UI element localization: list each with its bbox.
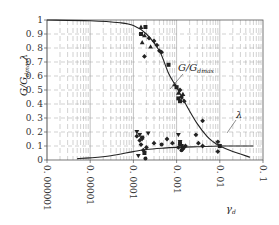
data-point-square xyxy=(143,25,147,29)
data-point-diamond xyxy=(170,141,175,146)
lambda-curve-annotation: λ xyxy=(235,109,242,120)
data-point-diamond xyxy=(142,54,147,59)
data-point-diamond xyxy=(194,132,199,137)
data-point-diamond xyxy=(200,118,205,123)
y-tick-label: 0. 9 xyxy=(26,29,43,39)
y-tick-label: 0 xyxy=(37,155,43,165)
data-point-diamond xyxy=(139,142,144,147)
data-point-diamond xyxy=(200,144,205,149)
lambda-curve xyxy=(77,146,253,159)
data-point-square xyxy=(167,63,171,67)
x-tick-label: 0. 001 xyxy=(172,165,182,194)
data-point-diamond xyxy=(165,137,170,142)
y-tick-label: 0. 8 xyxy=(26,43,43,53)
x-axis-label: γd xyxy=(226,203,236,215)
data-point-triangle-up xyxy=(140,40,145,44)
data-point-square xyxy=(140,136,144,140)
data-points xyxy=(134,25,221,161)
y-tick-label: 1 xyxy=(37,15,43,25)
x-tick-label: 0. 0001 xyxy=(128,165,138,199)
y-axis-label: G/Gdmaxλ xyxy=(18,54,30,96)
data-point-triangle-down xyxy=(136,154,141,158)
data-point-circle xyxy=(180,148,184,152)
x-tick-label: 0. 1 xyxy=(258,165,268,182)
data-point-circle xyxy=(143,157,147,161)
g-curve-annotation: G/Gdmax xyxy=(178,62,214,74)
y-tick-label: 0. 2 xyxy=(26,127,43,137)
data-point-triangle-up xyxy=(148,44,153,48)
data-point-square xyxy=(175,85,179,89)
data-point-square xyxy=(139,32,143,36)
data-point-circle xyxy=(160,143,164,147)
x-tick-label: 0. 00001 xyxy=(85,165,95,205)
data-point-diamond xyxy=(182,99,187,104)
data-point-square xyxy=(218,144,222,148)
data-point-square xyxy=(178,141,182,145)
data-point-triangle-up xyxy=(139,25,144,29)
fitted-curves xyxy=(47,20,253,159)
data-point-diamond xyxy=(152,141,157,146)
data-point-diamond xyxy=(147,36,152,41)
data-point-square xyxy=(178,99,182,103)
data-point-diamond xyxy=(152,39,157,44)
chart: 00. 10. 20. 30. 40. 50. 60. 70. 80. 91 0… xyxy=(0,0,279,225)
x-tick-label: 0. 000001 xyxy=(42,165,52,211)
y-tick-label: 0. 3 xyxy=(26,113,43,123)
lambda-annotation-leader xyxy=(227,120,236,133)
x-tick-label: 0. 01 xyxy=(215,165,225,188)
x-axis-ticks: 0. 0000010. 000010. 00010. 0010. 010. 1 xyxy=(42,160,268,211)
y-tick-label: 0. 1 xyxy=(26,141,43,151)
data-point-square xyxy=(142,151,146,155)
y-tick-label: 0. 4 xyxy=(26,99,43,109)
data-point-diamond xyxy=(196,141,201,146)
